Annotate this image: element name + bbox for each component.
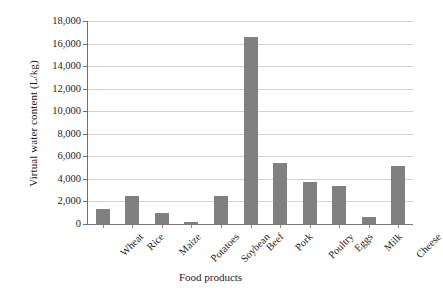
y-tick-label: 12,000 bbox=[35, 84, 81, 94]
y-tick-mark bbox=[83, 224, 87, 225]
y-tick-mark bbox=[83, 89, 87, 90]
x-tick-mark bbox=[339, 225, 340, 228]
bar[interactable] bbox=[273, 163, 287, 224]
x-tick-mark bbox=[369, 225, 370, 228]
y-tick-label: 4,000 bbox=[35, 174, 81, 184]
x-tick-label: Pork bbox=[293, 231, 315, 253]
bar[interactable] bbox=[184, 222, 198, 224]
bar[interactable] bbox=[362, 217, 376, 224]
y-tick-label: 8,000 bbox=[35, 129, 81, 139]
x-tick-label: Milk bbox=[382, 231, 404, 253]
x-tick-label: Maize bbox=[177, 231, 203, 257]
x-axis-title: Food products bbox=[0, 271, 421, 283]
x-tick-label: Poultry bbox=[326, 231, 356, 261]
x-tick-label: Rice bbox=[145, 231, 166, 252]
bar[interactable] bbox=[155, 213, 169, 224]
y-tick-mark bbox=[83, 66, 87, 67]
y-tick-label: 0 bbox=[35, 219, 81, 229]
bar[interactable] bbox=[303, 182, 317, 224]
x-tick-label: Eggs bbox=[352, 231, 375, 254]
x-tick-mark bbox=[132, 225, 133, 228]
y-tick-label: 18,000 bbox=[35, 16, 81, 26]
bar[interactable] bbox=[332, 186, 346, 224]
x-tick-mark bbox=[162, 225, 163, 228]
y-tick-mark bbox=[83, 156, 87, 157]
y-axis-tick-labels: 02,0004,0006,0008,00010,00012,00014,0001… bbox=[31, 0, 81, 297]
bar[interactable] bbox=[214, 196, 228, 224]
x-tick-mark bbox=[251, 225, 252, 228]
y-tick-label: 14,000 bbox=[35, 61, 81, 71]
x-tick-label: Potatoes bbox=[209, 231, 242, 264]
x-tick-mark bbox=[221, 225, 222, 228]
y-tick-label: 6,000 bbox=[35, 151, 81, 161]
y-tick-mark bbox=[83, 111, 87, 112]
y-tick-mark bbox=[83, 179, 87, 180]
bar[interactable] bbox=[96, 209, 110, 224]
bar[interactable] bbox=[244, 37, 258, 224]
y-tick-label: 10,000 bbox=[35, 106, 81, 116]
y-tick-mark bbox=[83, 201, 87, 202]
bar[interactable] bbox=[391, 166, 405, 224]
x-tick-mark bbox=[103, 225, 104, 228]
gridline bbox=[88, 21, 413, 22]
y-tick-label: 2,000 bbox=[35, 196, 81, 206]
x-tick-label: Wheat bbox=[118, 231, 145, 258]
bar[interactable] bbox=[125, 196, 139, 224]
y-tick-mark bbox=[83, 44, 87, 45]
y-tick-mark bbox=[83, 21, 87, 22]
x-tick-mark bbox=[280, 225, 281, 228]
y-tick-label: 16,000 bbox=[35, 39, 81, 49]
x-tick-mark bbox=[310, 225, 311, 228]
x-tick-label: Cheese bbox=[414, 231, 443, 260]
plot-area bbox=[88, 21, 413, 224]
x-tick-mark bbox=[191, 225, 192, 228]
x-tick-mark bbox=[398, 225, 399, 228]
y-tick-mark bbox=[83, 134, 87, 135]
